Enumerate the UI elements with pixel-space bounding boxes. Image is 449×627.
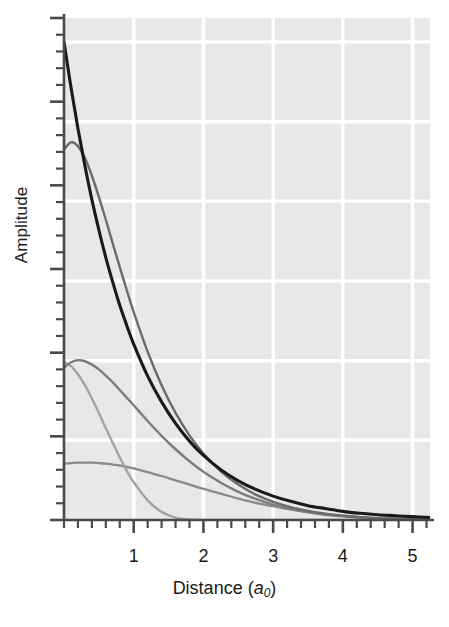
- figure-container: Amplitude Distance (a0) 12345: [0, 0, 449, 627]
- x-axis-label-symbol: a: [254, 578, 264, 598]
- x-tick-label-1: 1: [119, 546, 149, 567]
- x-tick-label-5: 5: [398, 546, 428, 567]
- x-axis-label-text: Distance (: [173, 578, 254, 598]
- x-tick-label-2: 2: [188, 546, 218, 567]
- x-tick-label-4: 4: [328, 546, 358, 567]
- x-axis-label: Distance (a0): [0, 578, 449, 600]
- x-tick-label-3: 3: [258, 546, 288, 567]
- plot-canvas: [0, 0, 449, 627]
- x-axis-label-close: ): [270, 578, 276, 598]
- y-axis-label: Amplitude: [12, 165, 32, 285]
- plot-background: [64, 18, 430, 520]
